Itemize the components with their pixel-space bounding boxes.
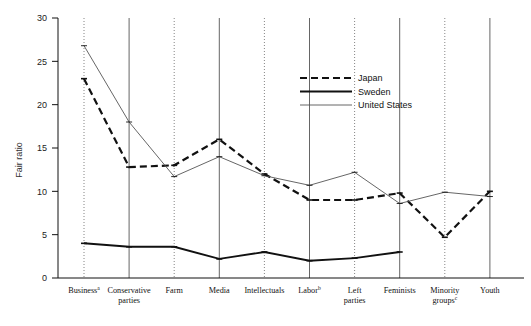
x-tick-label-1: Conservative <box>107 286 151 295</box>
x-tick-label-4: Intellectuals <box>244 286 284 295</box>
y-axis-title: Fair ratio <box>14 142 24 178</box>
y-tick-label-15: 15 <box>37 143 47 153</box>
legend-label-japan: Japan <box>358 73 383 83</box>
series-line <box>84 46 490 204</box>
chart-container: Fair ratio 051015202530 BusinessaConserv… <box>0 0 531 326</box>
x-tick-label-2: Farm <box>166 286 184 295</box>
fair-ratio-line-chart: Fair ratio 051015202530 BusinessaConserv… <box>0 0 531 326</box>
y-tick-label-25: 25 <box>37 57 47 67</box>
y-tick-label-10: 10 <box>37 187 47 197</box>
y-tick-labels: 051015202530 <box>37 13 47 283</box>
legend-label-sweden: Sweden <box>358 87 391 97</box>
series-japan <box>81 79 493 238</box>
x-tick-label-9: Youth <box>480 286 500 295</box>
y-tick-label-0: 0 <box>42 273 47 283</box>
data-series-layer <box>81 46 493 261</box>
x-tick-label-8: Minority <box>430 286 460 295</box>
x-tick-label-6-line2: parties <box>344 296 366 305</box>
x-tick-label-1-line2: parties <box>118 296 140 305</box>
x-tick-label-6: Left <box>348 286 362 295</box>
legend-label-united-states: United States <box>358 100 413 110</box>
y-axis <box>52 18 58 278</box>
y-tick-label-5: 5 <box>42 230 47 240</box>
y-tick-label-20: 20 <box>37 100 47 110</box>
x-tick-labels: BusinessaConservativepartiesFarmMediaInt… <box>68 285 500 305</box>
x-tick-label-7: Feminists <box>384 286 416 295</box>
series-united-states <box>81 46 493 204</box>
series-line <box>84 79 490 238</box>
x-tick-label-8-line2: groupsc <box>432 295 457 305</box>
x-tick-label-5: Laborb <box>298 285 321 295</box>
x-tick-label-0: Businessa <box>68 285 100 295</box>
category-gridlines <box>84 18 490 278</box>
chart-legend: JapanSwedenUnited States <box>300 73 413 110</box>
y-tick-label-30: 30 <box>37 13 47 23</box>
x-tick-label-3: Media <box>209 286 230 295</box>
